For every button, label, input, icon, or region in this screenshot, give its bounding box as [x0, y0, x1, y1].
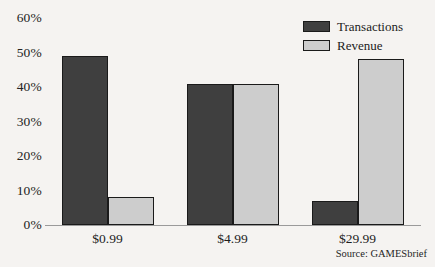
y-axis-tick-label: 50%	[0, 46, 42, 60]
legend-swatch-transactions	[303, 21, 330, 32]
legend-item-transactions: Transactions	[303, 18, 433, 34]
x-axis-line	[45, 225, 421, 226]
bar-revenue	[358, 59, 404, 225]
x-axis-tick-label: $29.99	[295, 231, 420, 246]
y-axis-tick-label: 20%	[0, 149, 42, 163]
legend-label-transactions: Transactions	[337, 20, 403, 33]
x-axis-tick-label: $0.99	[45, 231, 170, 246]
bar-group	[62, 18, 154, 225]
y-axis-tick-label: 60%	[0, 11, 42, 25]
bar-revenue	[108, 197, 154, 225]
legend-swatch-revenue	[303, 40, 330, 51]
legend-label-revenue: Revenue	[337, 39, 382, 52]
legend-item-revenue: Revenue	[303, 37, 433, 53]
bar-group	[187, 18, 279, 225]
bar-transactions	[187, 84, 233, 225]
chart-legend: Transactions Revenue	[303, 18, 433, 56]
y-axis-tick-label: 10%	[0, 184, 42, 198]
y-axis: 0%10%20%30%40%50%60%	[0, 0, 44, 232]
bar-transactions	[312, 201, 358, 225]
y-axis-tick-label: 0%	[0, 218, 42, 232]
source-attribution: Source: GAMESbrief	[336, 248, 427, 259]
bar-transactions	[62, 56, 108, 225]
x-axis-tick-label: $4.99	[170, 231, 295, 246]
y-axis-tick-label: 30%	[0, 115, 42, 129]
bar-revenue	[233, 84, 279, 225]
y-axis-tick-label: 40%	[0, 80, 42, 94]
bar-chart: 0%10%20%30%40%50%60% Transactions Revenu…	[0, 0, 435, 267]
